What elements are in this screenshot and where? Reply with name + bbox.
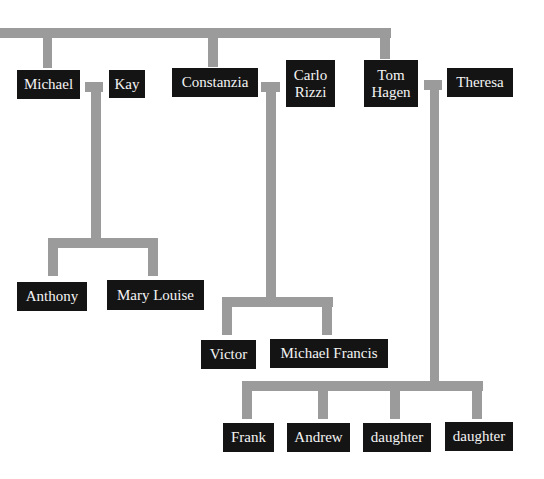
drop-constanzia — [208, 28, 218, 67]
descent-michael-kay — [91, 82, 101, 248]
drop-andrew — [318, 381, 328, 419]
person-michael: Michael — [17, 70, 80, 99]
descent-tom-theresa — [430, 80, 439, 391]
drop-michael-francis — [322, 297, 332, 335]
drop-anthony — [48, 238, 58, 276]
person-daughter-2: daughter — [445, 422, 513, 451]
children-bar-tom-theresa — [242, 381, 483, 391]
person-theresa: Theresa — [447, 68, 513, 97]
drop-victor — [222, 297, 232, 335]
person-michael-francis: Michael Francis — [270, 339, 388, 368]
person-daughter-1: daughter — [363, 423, 431, 452]
drop-frank — [242, 381, 252, 419]
person-carlo-rizzi: Carlo Rizzi — [286, 60, 335, 107]
person-anthony: Anthony — [17, 282, 87, 311]
person-frank: Frank — [223, 423, 274, 452]
drop-daughter-1 — [390, 381, 400, 419]
drop-michael — [43, 28, 52, 68]
person-mary-louise: Mary Louise — [107, 280, 204, 310]
descent-constanzia-carlo — [266, 82, 276, 307]
children-bar-michael-kay — [48, 238, 158, 248]
drop-tom-hagen — [380, 28, 390, 59]
sibling-bar — [0, 28, 391, 38]
person-tom-hagen: Tom Hagen — [364, 60, 418, 107]
drop-mary-louise — [148, 238, 158, 276]
children-bar-constanzia-carlo — [222, 297, 333, 307]
drop-daughter-2 — [472, 381, 482, 419]
person-victor: Victor — [201, 340, 256, 369]
person-constanzia: Constanzia — [172, 68, 258, 97]
person-andrew: Andrew — [287, 423, 350, 452]
person-kay: Kay — [109, 70, 145, 98]
